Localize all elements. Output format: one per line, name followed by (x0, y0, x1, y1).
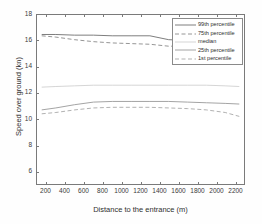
legend-line-sample-icon (175, 39, 196, 45)
legend-item[interactable]: 1st percentile (175, 55, 240, 63)
legend-line-sample-icon (175, 22, 196, 28)
legend-item[interactable]: 75th percentile (175, 29, 240, 37)
legend-item-label: 75th percentile (198, 31, 235, 37)
y-axis-title: Speed over ground (kn) (14, 27, 23, 167)
y-tick-label: 6 (12, 168, 32, 175)
figure-canvas: 681012141618 200400600800100012001400160… (0, 0, 262, 224)
legend-item[interactable]: median (175, 38, 240, 46)
legend-line-sample-icon (175, 31, 196, 37)
series-line (42, 85, 240, 87)
x-axis-title: Distance to the entrance (m) (36, 205, 245, 214)
legend-box[interactable]: 99th percentile75th percentilemedian25th… (172, 18, 243, 65)
series-line (42, 107, 240, 116)
x-tick-label: 2200 (225, 188, 247, 195)
legend-line-sample-icon (175, 47, 196, 53)
legend-item-label: 25th percentile (198, 48, 235, 54)
legend-item-label: 1st percentile (198, 56, 231, 62)
legend-line-sample-icon (175, 56, 196, 62)
legend-item[interactable]: 99th percentile (175, 21, 240, 29)
legend-item-label: 99th percentile (198, 22, 235, 28)
legend-item-label: median (198, 39, 216, 45)
y-tick-label: 18 (12, 11, 32, 18)
series-line (42, 101, 240, 109)
legend-item[interactable]: 25th percentile (175, 46, 240, 54)
